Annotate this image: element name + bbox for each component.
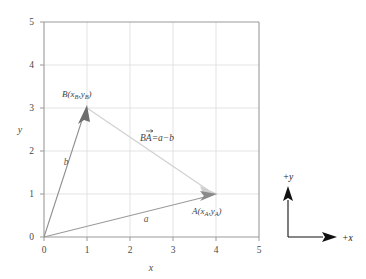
vector-diagram-figure: 0 1 2 3 4 5 0 1 2 3 4 5 x y <box>0 0 366 279</box>
ytick-label-3: 3 <box>29 103 34 113</box>
xtick-label-3: 3 <box>171 245 176 255</box>
y-axis-label: y <box>17 124 23 135</box>
xtick-label-4: 4 <box>214 245 219 255</box>
ytick-label-1: 1 <box>29 189 34 199</box>
equation-text: BA=a−b <box>140 133 174 143</box>
ytick-label-0: 0 <box>29 232 34 242</box>
equation-rest: =a−b <box>152 133 175 143</box>
vector-a-label: a <box>144 214 149 224</box>
vector-diagram-canvas: 0 1 2 3 4 5 0 1 2 3 4 5 x y <box>0 0 366 279</box>
xtick-label-1: 1 <box>85 245 90 255</box>
orientation-x-label: +x <box>342 233 353 243</box>
x-axis-label: x <box>148 262 154 273</box>
point-label-a-close: ) <box>218 206 222 216</box>
point-label-b-base: B(x <box>62 89 75 99</box>
point-label-a-base: A(x <box>191 206 205 216</box>
xtick-label-5: 5 <box>257 245 262 255</box>
xtick-label-0: 0 <box>42 245 47 255</box>
xtick-label-2: 2 <box>128 245 133 255</box>
vector-b-label: b <box>64 157 69 167</box>
point-label-b-close: ) <box>88 89 92 99</box>
ytick-label-5: 5 <box>29 17 34 27</box>
ytick-label-2: 2 <box>29 146 34 156</box>
orientation-y-label: +y <box>283 172 294 182</box>
ytick-label-4: 4 <box>29 60 34 70</box>
